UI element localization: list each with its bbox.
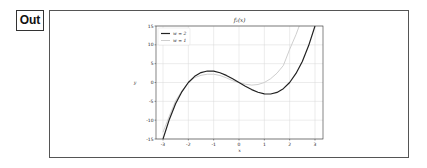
- y-tick-label: -10: [146, 118, 153, 123]
- y-tick-label: -5: [149, 99, 154, 104]
- y-tick-label: 0: [151, 80, 154, 85]
- chart: -3-2-10123-15-10-5051015 f₂(x) x y w = 2…: [0, 0, 427, 168]
- x-tick-label: -1: [211, 142, 216, 147]
- x-tick-label: 1: [263, 142, 266, 147]
- x-tick-label: 0: [238, 142, 241, 147]
- x-tick-label: -3: [161, 142, 166, 147]
- legend-label-w2: w = 2: [173, 31, 186, 36]
- y-axis-label: y: [133, 80, 137, 85]
- chart-title: f₂(x): [233, 17, 246, 24]
- y-tick-label: 5: [151, 61, 154, 66]
- x-tick-label: -2: [186, 142, 191, 147]
- y-tick-label: -15: [146, 137, 153, 142]
- legend-label-w1: w = 1: [173, 38, 186, 43]
- x-axis-label: x: [238, 148, 241, 153]
- legend: w = 2 w = 1: [158, 28, 190, 45]
- y-tick-label: 10: [148, 42, 154, 47]
- y-tick-label: 15: [148, 24, 154, 29]
- x-tick-label: 2: [288, 142, 291, 147]
- x-tick-label: 3: [314, 142, 317, 147]
